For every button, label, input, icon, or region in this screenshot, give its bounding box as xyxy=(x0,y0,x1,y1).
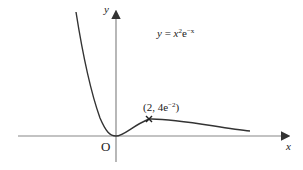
y-axis-label: y xyxy=(104,3,109,15)
point-label-open: (2, 4e xyxy=(143,101,168,113)
point-label-exp: −2 xyxy=(168,101,175,109)
point-label-close: ) xyxy=(176,101,180,113)
point-label: (2, 4e−2) xyxy=(143,101,179,113)
eq-exp2: −x xyxy=(187,27,194,35)
x-axis-label: x xyxy=(286,140,291,152)
function-graph xyxy=(0,0,303,170)
origin-label: O xyxy=(101,139,110,155)
eq-sign: = xyxy=(162,27,174,39)
equation-label: y = x2e−x xyxy=(157,27,194,39)
